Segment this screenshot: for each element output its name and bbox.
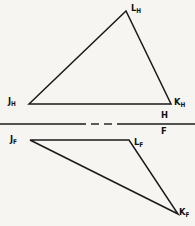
label-f-plane-base: F bbox=[161, 125, 167, 136]
label-j-h-sub: H bbox=[11, 100, 16, 108]
label-k-h-sub: H bbox=[180, 101, 185, 109]
label-l-h: LH bbox=[131, 3, 141, 13]
label-j-h: JH bbox=[8, 96, 16, 106]
label-j-f-sub: F bbox=[13, 138, 17, 146]
top-view-triangle bbox=[29, 11, 171, 104]
label-h-plane: H bbox=[161, 110, 168, 120]
label-l-f-sub: F bbox=[139, 141, 143, 149]
label-k-h: KH bbox=[174, 97, 185, 107]
label-l-f: LF bbox=[134, 137, 143, 147]
label-j-f-base: J bbox=[10, 133, 13, 144]
drawing-sheet: LH JH KH H F JF LF KF bbox=[0, 0, 195, 226]
label-j-h-base: J bbox=[8, 95, 11, 106]
label-l-h-sub: H bbox=[136, 7, 141, 15]
front-view-triangle bbox=[30, 140, 178, 214]
label-k-f: KF bbox=[179, 207, 189, 217]
label-h-plane-base: H bbox=[161, 109, 168, 120]
label-f-plane: F bbox=[161, 126, 167, 136]
label-j-f: JF bbox=[10, 134, 17, 144]
label-k-f-sub: F bbox=[185, 211, 189, 219]
